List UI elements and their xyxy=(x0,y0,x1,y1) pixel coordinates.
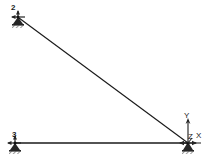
node-label-3: 3 xyxy=(12,131,16,139)
node-2-marker xyxy=(17,16,20,19)
node-3-arrowhead-left xyxy=(7,141,12,145)
node-2-support xyxy=(11,10,25,28)
node-3-ground-hatch xyxy=(9,151,21,154)
model-viewport: 2 3 Y Z X xyxy=(0,0,206,162)
axis-label-z: Z xyxy=(188,133,193,141)
node-1-ground-hatch xyxy=(182,151,194,154)
node-2-arrowhead-up xyxy=(16,10,20,15)
axis-label-x: X xyxy=(196,132,201,140)
node-1-ground-bar xyxy=(182,150,194,152)
node-3-marker xyxy=(14,142,17,145)
node-2-ground-hatch xyxy=(12,25,24,28)
structural-model-canvas xyxy=(0,0,206,162)
node-2-arrowhead-left xyxy=(11,15,16,19)
node-3-ground-bar xyxy=(9,150,21,152)
members-group xyxy=(15,18,188,143)
axis-label-y: Y xyxy=(184,112,189,120)
node-2-ground-bar xyxy=(12,24,24,26)
node-label-2: 2 xyxy=(11,4,15,12)
node-1-arrowhead-left xyxy=(179,141,184,145)
member-diagonal xyxy=(19,18,188,143)
